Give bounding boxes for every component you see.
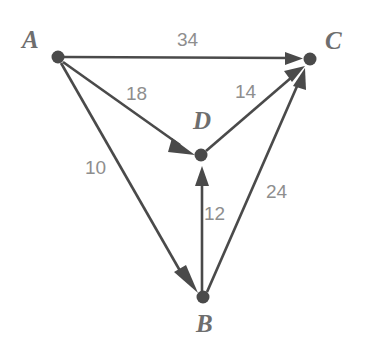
node-label-c: C bbox=[325, 28, 342, 53]
edge-b-to-c bbox=[207, 68, 306, 292]
edge-weight-a-to-b: 10 bbox=[85, 158, 106, 177]
edge-b-to-d bbox=[195, 166, 209, 291]
graph-diagram: A C D B 34 18 10 14 12 24 bbox=[0, 0, 366, 355]
edge-a-to-c-arrowhead bbox=[285, 52, 303, 65]
edge-a-to-b-line bbox=[61, 63, 183, 276]
edge-a-to-b-arrowhead bbox=[174, 265, 198, 293]
edge-a-to-d-line bbox=[63, 62, 180, 145]
node-b-dot[interactable] bbox=[197, 291, 210, 304]
edge-weight-d-to-c: 14 bbox=[235, 82, 256, 101]
node-label-b: B bbox=[196, 311, 213, 336]
node-label-d: D bbox=[193, 108, 211, 133]
edge-a-to-c-line bbox=[64, 57, 292, 58]
edge-weight-a-to-c: 34 bbox=[177, 30, 198, 49]
edge-weight-b-to-d: 12 bbox=[204, 204, 225, 223]
edge-a-to-c bbox=[64, 52, 303, 65]
edge-d-to-c bbox=[206, 66, 305, 151]
edge-a-to-d bbox=[63, 62, 195, 155]
node-d-dot[interactable] bbox=[195, 149, 208, 162]
graph-canvas bbox=[0, 0, 366, 355]
edge-weight-b-to-c: 24 bbox=[266, 182, 287, 201]
edge-b-to-d-arrowhead bbox=[195, 166, 209, 186]
edge-weight-a-to-d: 18 bbox=[126, 84, 147, 103]
node-a-dot[interactable] bbox=[52, 51, 65, 64]
node-label-a: A bbox=[22, 27, 39, 52]
edge-a-to-d-arrowhead bbox=[168, 138, 195, 155]
node-c-dot[interactable] bbox=[304, 53, 317, 66]
